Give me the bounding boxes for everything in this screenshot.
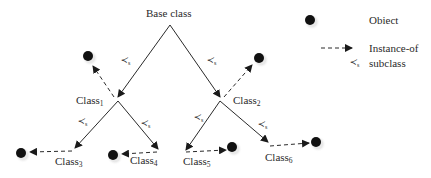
rel-class1-class3: ≺s bbox=[77, 117, 87, 127]
class4-sub: 4 bbox=[154, 159, 158, 168]
class3-label: Class3 bbox=[55, 156, 83, 169]
class5-label: Class5 bbox=[183, 156, 211, 169]
rel-class1-class4: ≺s bbox=[140, 119, 150, 129]
edge-class2-class5 bbox=[186, 101, 220, 150]
object-5 bbox=[226, 141, 242, 157]
class6-name: Class bbox=[265, 151, 289, 163]
rel-class2-class6: ≺s bbox=[257, 120, 267, 130]
base-class-label: Base class bbox=[146, 8, 192, 19]
class3-sub: 3 bbox=[79, 160, 83, 169]
class1-label: Class1 bbox=[76, 95, 104, 108]
object-4 bbox=[107, 149, 123, 165]
inst-class5 bbox=[186, 150, 226, 152]
legend-instance-label: Instance-of bbox=[369, 43, 418, 54]
class6-sub: 6 bbox=[289, 156, 293, 165]
legend-subclass-label: subclass bbox=[369, 58, 406, 69]
class3-name: Class bbox=[55, 155, 79, 167]
class5-name: Class bbox=[183, 155, 207, 167]
edge-class1-class4 bbox=[118, 101, 158, 149]
class2-label: Class2 bbox=[233, 95, 261, 108]
inst-class3 bbox=[30, 151, 72, 152]
class2-sub: 2 bbox=[257, 99, 261, 108]
class6-label: Class6 bbox=[265, 152, 293, 165]
legend-graphics bbox=[304, 14, 352, 48]
inst-class1 bbox=[93, 66, 114, 97]
legend-object-label: Obiect bbox=[369, 15, 398, 26]
class4-name: Class bbox=[130, 154, 154, 166]
legend-subclass-symbol: ≺s bbox=[349, 58, 359, 68]
objects bbox=[15, 50, 326, 165]
object-6 bbox=[310, 136, 326, 152]
class1-name: Class bbox=[76, 94, 100, 106]
legend-object-icon bbox=[305, 15, 315, 25]
class2-name: Class bbox=[233, 94, 257, 106]
object-3 bbox=[15, 147, 31, 163]
inst-class2 bbox=[224, 65, 252, 97]
class4-label: Class4 bbox=[130, 155, 158, 168]
inst-class6 bbox=[270, 143, 309, 146]
class1-sub: 1 bbox=[100, 99, 104, 108]
object-1 bbox=[82, 50, 98, 66]
subclass-edges bbox=[75, 25, 268, 150]
rel-base-class1: ≺s bbox=[120, 56, 130, 66]
rel-class2-class5: ≺s bbox=[193, 113, 203, 123]
object-2 bbox=[253, 52, 269, 68]
rel-base-class2: ≺s bbox=[206, 56, 216, 66]
class5-sub: 5 bbox=[207, 160, 211, 169]
class-diagram bbox=[0, 0, 431, 178]
